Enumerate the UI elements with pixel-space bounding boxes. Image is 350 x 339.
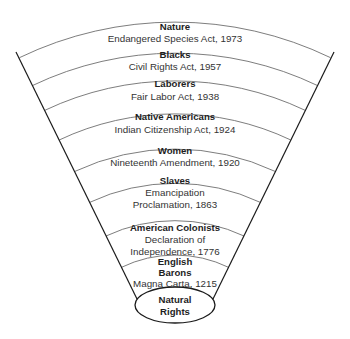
right-edge <box>213 52 334 299</box>
core-label-line: Rights <box>160 306 190 317</box>
band-law-label: Magna Carta, 1215 <box>133 278 217 289</box>
band-law-label: Nineteenth Amendment, 1920 <box>110 157 240 168</box>
natural-rights-core <box>135 287 215 323</box>
band-english-barons: English Barons Magna Carta, 1215 <box>133 256 217 289</box>
band-native-americans: Native Americans Indian Citizenship Act,… <box>115 111 236 135</box>
band-law-label: Civil Rights Act, 1957 <box>129 61 222 72</box>
left-edge <box>16 52 137 299</box>
band-group-label: Blacks <box>160 49 191 60</box>
core-label: Natural Rights <box>158 294 191 317</box>
band-group-label: Laborers <box>154 78 195 89</box>
band-law-label: Fair Labor Act, 1938 <box>131 91 220 102</box>
band-group-label: Barons <box>158 267 191 278</box>
band-group-label: American Colonists <box>130 222 220 233</box>
band-law-label: Indian Citizenship Act, 1924 <box>115 124 236 135</box>
band-law-label: Emancipation <box>145 187 204 198</box>
band-slaves: Slaves Emancipation Proclamation, 1863 <box>133 175 218 210</box>
band-blacks: Blacks Civil Rights Act, 1957 <box>129 49 222 72</box>
band-law-label: Endangered Species Act, 1973 <box>108 33 243 44</box>
band-group-label: Women <box>158 145 193 156</box>
band-group-label: Nature <box>160 21 190 32</box>
core-label-line: Natural <box>158 294 191 305</box>
band-nature: Nature Endangered Species Act, 1973 <box>108 21 243 44</box>
band-group-label: Native Americans <box>135 111 215 122</box>
band-law-label: Proclamation, 1863 <box>133 199 218 210</box>
band-laborers: Laborers Fair Labor Act, 1938 <box>131 78 220 102</box>
band-group-label: Slaves <box>160 175 190 186</box>
band-law-label: Declaration of <box>145 234 206 245</box>
band-american-colonists: American Colonists Declaration of Indepe… <box>130 222 220 257</box>
band-group-label: English <box>158 256 193 267</box>
rights-expansion-diagram: Nature Endangered Species Act, 1973 Blac… <box>0 0 350 339</box>
band-women: Women Nineteenth Amendment, 1920 <box>110 145 240 168</box>
